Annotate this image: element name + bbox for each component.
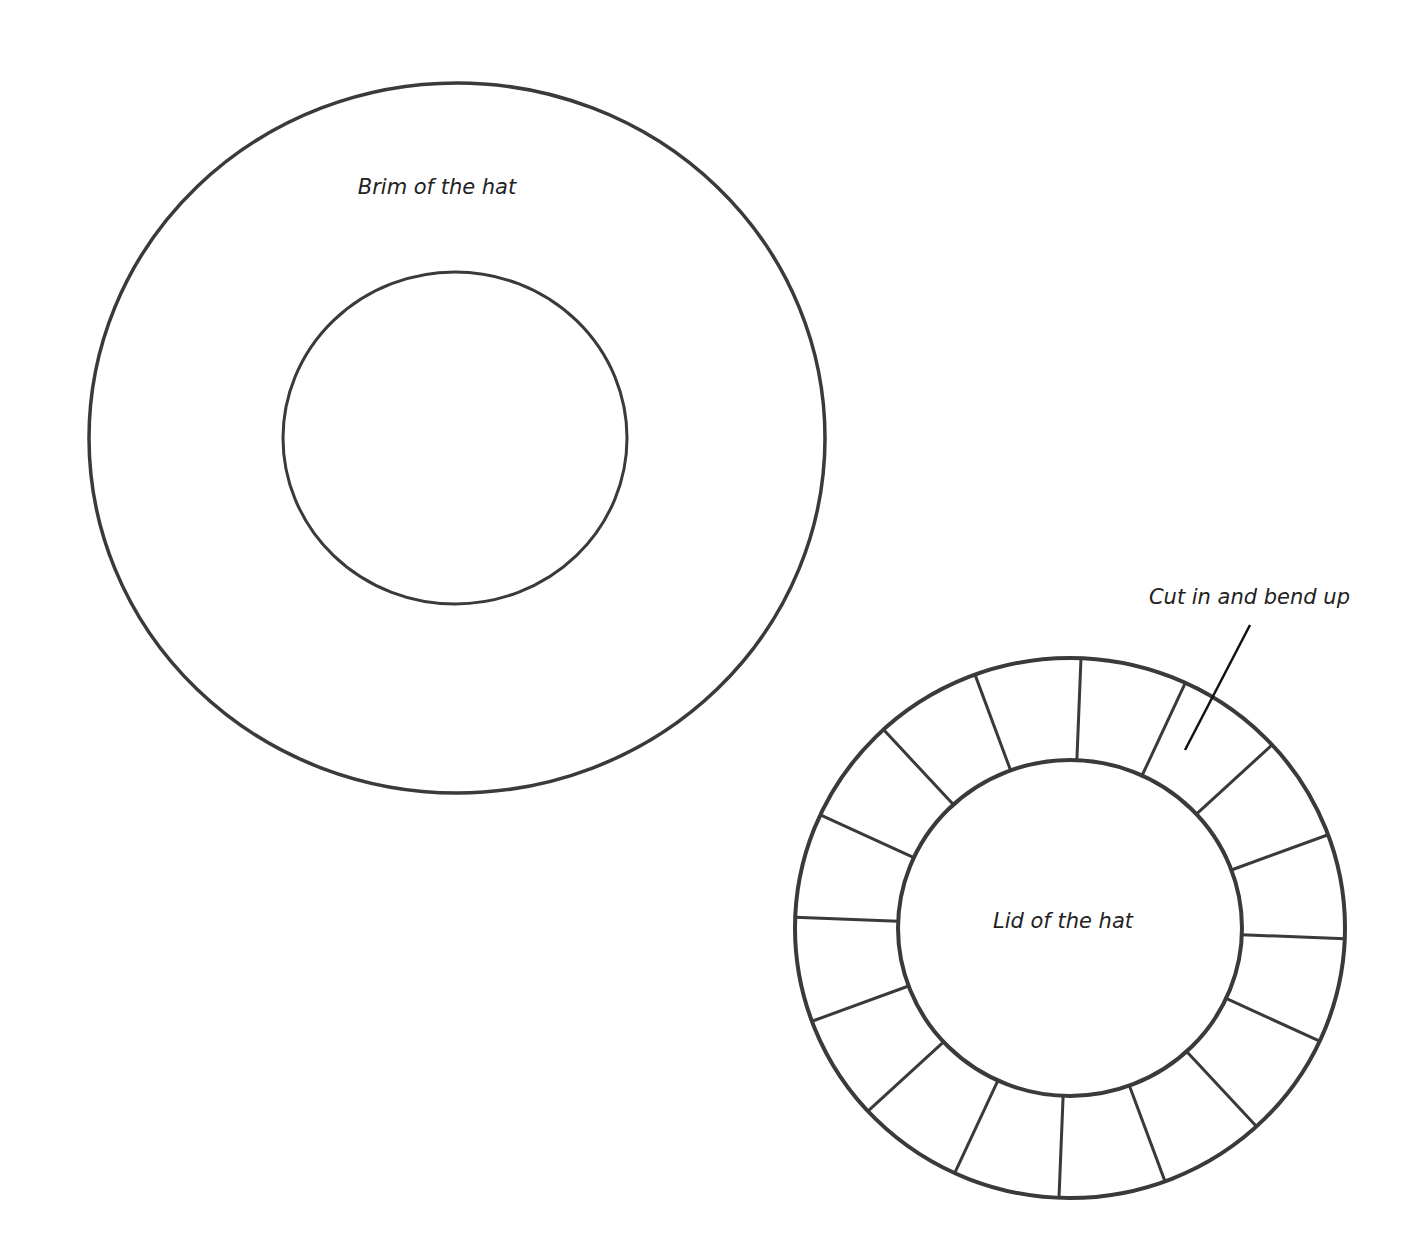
brim-of-hat: Brim of the hat: [89, 83, 825, 793]
hat-template-diagram: Brim of the hat Lid of the hat Cut in an…: [0, 0, 1415, 1253]
tab-cut-line: [1142, 683, 1185, 776]
tab-cut-line: [1077, 658, 1081, 760]
tab-cut-line: [1129, 1086, 1165, 1182]
tab-cut-line: [883, 730, 953, 805]
brim-label: Brim of the hat: [358, 175, 517, 199]
tab-cut-line: [955, 1081, 998, 1174]
tab-cut-line: [975, 675, 1011, 771]
tab-cut-line: [1231, 835, 1328, 870]
tab-cut-line: [868, 1042, 944, 1111]
tab-cut-line: [1187, 1051, 1257, 1126]
tab-cut-line: [1226, 998, 1320, 1041]
tab-cut-line: [1242, 935, 1345, 939]
lid-of-hat: Lid of the hat: [795, 658, 1345, 1198]
tab-cut-line: [795, 917, 898, 921]
brim-inner-circle: [283, 272, 627, 604]
tab-cut-line: [1059, 1096, 1063, 1198]
lid-label: Lid of the hat: [993, 909, 1134, 933]
tab-cut-line: [820, 815, 914, 858]
tab-cut-line: [1196, 745, 1272, 814]
tab-cut-line: [812, 986, 909, 1021]
cut-annotation-label: Cut in and bend up: [1149, 585, 1350, 609]
